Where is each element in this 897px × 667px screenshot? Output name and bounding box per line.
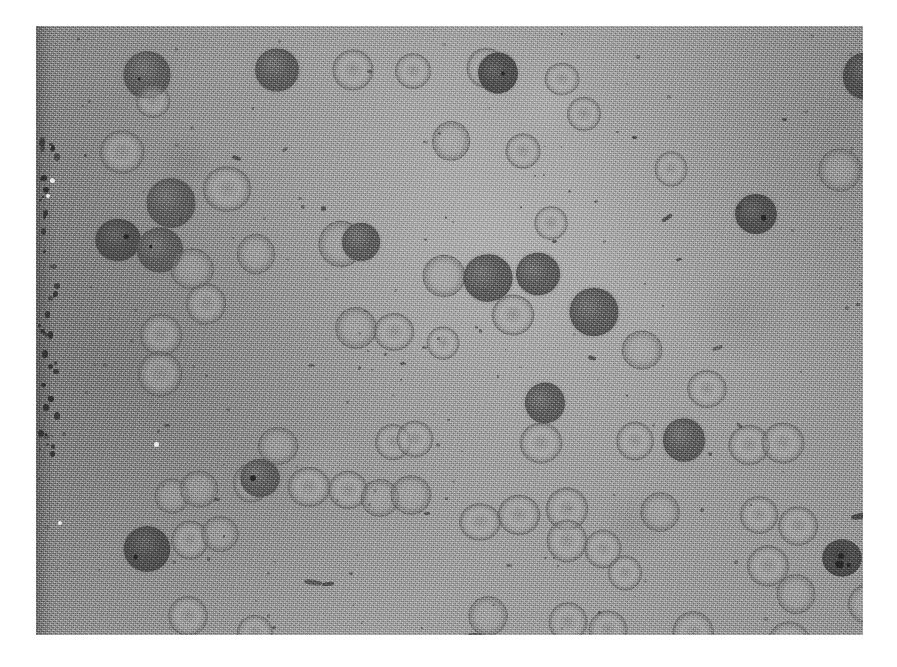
micrograph-plate [36,26,863,635]
film-grain-coarse [36,26,863,635]
page-root [0,0,897,667]
